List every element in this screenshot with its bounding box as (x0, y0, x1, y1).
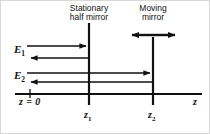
field-label-e1: E1 (14, 44, 25, 58)
moving-mirror-caption-line2: mirror (125, 13, 181, 22)
position-label-z1: z1 (84, 110, 91, 123)
field-label-e2: E2 (14, 70, 25, 84)
position-label-z1-subscript: 1 (88, 115, 92, 123)
physics-diagram: Stationary half mirror Moving mirror E1 … (0, 0, 210, 134)
position-label-z2: z2 (148, 110, 155, 123)
moving-mirror-caption: Moving mirror (125, 4, 181, 22)
origin-label: z = 0 (19, 97, 41, 108)
stationary-mirror-caption-line2: half mirror (53, 13, 125, 22)
z-axis-label: z (193, 97, 197, 108)
stationary-half-mirror-caption: Stationary half mirror (53, 4, 125, 22)
field-label-e1-subscript: 1 (21, 49, 25, 58)
position-label-z2-subscript: 2 (152, 115, 156, 123)
field-label-e2-subscript: 2 (21, 75, 25, 84)
